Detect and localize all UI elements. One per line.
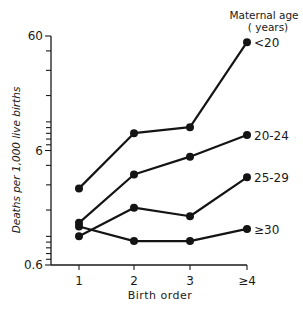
data-point [130, 204, 138, 212]
series-label: ≥30 [254, 223, 279, 237]
line-chart: 0.6660 123≥4 <2020-2425-29≥30 Birth orde… [0, 0, 303, 312]
data-point [243, 225, 251, 233]
y-ticks: 0.6660 [24, 29, 51, 272]
series-label: <20 [254, 36, 279, 50]
data-point [243, 131, 251, 139]
series-line [79, 135, 247, 223]
data-point [186, 153, 194, 161]
series-line [79, 177, 247, 236]
series-label: 25-29 [254, 171, 289, 185]
data-point [243, 173, 251, 181]
legend-title: Maternal age [229, 9, 298, 21]
series-label: 20-24 [254, 129, 289, 143]
data-point [75, 223, 83, 231]
x-tick-label: 2 [130, 274, 138, 288]
y-tick-label: 60 [28, 29, 43, 43]
series-3: ≥30 [75, 223, 279, 246]
x-tick-label: 3 [186, 274, 194, 288]
series-0: <20 [75, 36, 279, 192]
y-axis-title: Deaths per 1,000 live births [10, 86, 22, 233]
x-tick-label: ≥4 [238, 274, 256, 288]
y-tick-label: 0.6 [24, 258, 43, 272]
data-point [243, 38, 251, 46]
data-point [130, 237, 138, 245]
data-point [130, 171, 138, 179]
x-ticks: 123≥4 [75, 265, 256, 288]
series-line [79, 42, 247, 188]
data-point [186, 123, 194, 131]
data-point [186, 237, 194, 245]
data-point [75, 184, 83, 192]
x-axis-title: Birth order [128, 289, 193, 302]
series-group: <2020-2425-29≥30 [75, 36, 289, 245]
data-point [130, 129, 138, 137]
y-tick-label: 6 [35, 144, 43, 158]
x-tick-label: 1 [75, 274, 83, 288]
legend-subtitle: ( years) [248, 21, 288, 33]
axes [51, 36, 247, 265]
data-point [186, 212, 194, 220]
data-point [75, 232, 83, 240]
series-line [79, 227, 247, 242]
